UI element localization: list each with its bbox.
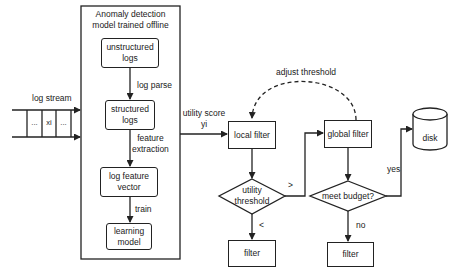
log-stream-cell-xi: xi xyxy=(42,118,56,127)
less-than-label: < xyxy=(259,220,264,231)
node-learning-model: learningmodel xyxy=(106,223,152,250)
utility-threshold-label: utility threshold xyxy=(225,185,279,207)
edge-label-log-parse: log parse xyxy=(137,80,172,91)
adjust-threshold-label: adjust threshold xyxy=(276,67,336,78)
log-stream-cell-3: ... xyxy=(56,118,71,127)
local-filter-box: local filter xyxy=(228,121,276,149)
disk-cylinder-top xyxy=(413,108,447,120)
node-unstructured-logs: unstructuredlogs xyxy=(101,38,159,68)
edge-label-train: train xyxy=(135,204,152,215)
offline-panel-title: Anomaly detection model trained offline xyxy=(81,9,180,31)
global-filter-box: global filter xyxy=(324,120,372,148)
disk-label: disk xyxy=(413,133,447,144)
utility-score-label: utility score yi xyxy=(180,108,228,130)
filter-box-left: filter xyxy=(228,240,276,267)
edge-label-feature-extraction: feature extraction xyxy=(132,133,169,155)
node-structured-logs: structuredlogs xyxy=(105,100,155,130)
log-stream-label: log stream xyxy=(32,93,72,104)
title-line-2: model trained offline xyxy=(81,20,180,31)
node-log-feature-vector: log featurevector xyxy=(100,167,158,197)
filter-box-right: filter xyxy=(327,242,374,267)
meet-budget-label: meet budget? xyxy=(310,191,386,202)
greater-than-label: > xyxy=(288,180,293,191)
title-line-1: Anomaly detection xyxy=(81,9,180,20)
log-stream-cell-1: ... xyxy=(27,118,42,127)
no-label: no xyxy=(356,220,365,231)
adjust-threshold-arrow xyxy=(252,81,356,120)
yes-label: yes xyxy=(387,164,400,175)
arrow-yes xyxy=(386,129,412,196)
